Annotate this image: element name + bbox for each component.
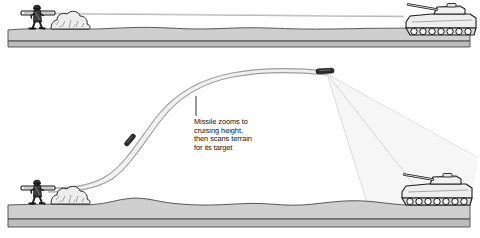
soldier-with-launcher-top-panel [21,5,55,28]
line-of-sight [46,14,404,17]
panel-direct-fire [8,4,476,48]
missile-engagement-diagram: Missile zooms to cruising height, then s… [0,0,480,238]
ground-face-bottom-panel [8,219,470,227]
missile-apex [316,68,334,74]
target-tank-top-panel [406,4,476,36]
annotation-text: Missile zooms to cruising height, then s… [194,118,286,152]
ground-face-top-panel [8,41,470,47]
missile-ascending [124,133,136,147]
